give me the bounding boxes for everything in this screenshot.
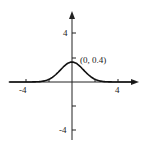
y-axis-arrow-icon: [69, 11, 75, 19]
x-tick-label-pos4: 4: [115, 86, 120, 95]
y-tick-label-pos4: 4: [63, 29, 68, 38]
y-tick-label-neg4: -4: [59, 126, 67, 135]
x-tick-label-neg4: -4: [19, 86, 27, 95]
peak-annotation: (0, 0.4): [80, 56, 106, 65]
plot-area: [0, 0, 141, 144]
